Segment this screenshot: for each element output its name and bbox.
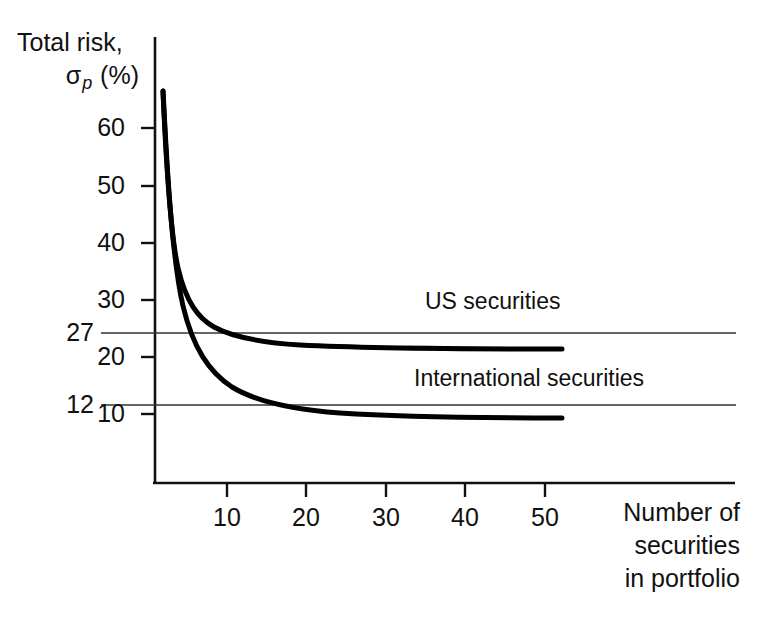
y-asymptote-label-12: 12: [24, 392, 94, 417]
y-tick-label-40: 40: [55, 230, 125, 255]
y-tick-label-50: 50: [55, 173, 125, 198]
y-tick-label-60: 60: [55, 115, 125, 140]
y-axis-units: (%): [100, 61, 139, 89]
x-axis-title-line1: Number of: [500, 496, 740, 529]
y-asymptote-label-27: 27: [24, 320, 94, 345]
sigma-symbol: σ: [66, 61, 81, 89]
x-axis-ticks: [227, 483, 545, 497]
x-tick-label-30: 30: [356, 505, 416, 530]
y-axis-title-line2: σp (%): [17, 60, 139, 98]
sigma-subscript: p: [81, 73, 93, 93]
x-tick-label-40: 40: [435, 505, 495, 530]
y-axis-title-line1: Total risk,: [17, 27, 123, 57]
x-tick-label-10: 10: [197, 505, 257, 530]
x-axis-title: Number of securities in portfolio: [500, 496, 740, 595]
y-tick-label-20: 20: [55, 344, 125, 369]
x-axis-title-line3: in portfolio: [500, 562, 740, 595]
risk-diversification-chart: Total risk, σp (%) 60 50 40 30 20 10 27 …: [0, 0, 759, 622]
y-axis-ticks: [141, 128, 155, 414]
series-label-international-securities: International securities: [414, 366, 644, 391]
y-tick-label-30: 30: [55, 287, 125, 312]
series-label-us-securities: US securities: [425, 289, 560, 314]
x-axis-title-line2: securities: [500, 529, 740, 562]
x-tick-label-20: 20: [276, 505, 336, 530]
